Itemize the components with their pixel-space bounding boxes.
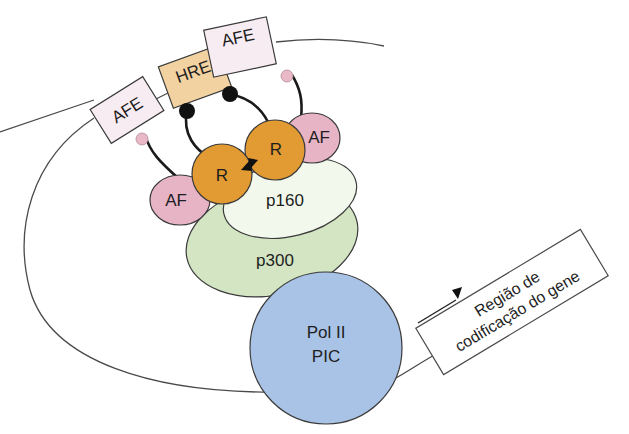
receptor-left-label: R (216, 166, 228, 185)
transcription-diagram: AFE HRE AFE p300 p160 AF AF R R Pol II P… (0, 0, 629, 434)
receptor-right-label: R (270, 140, 282, 159)
tether-afe-right (292, 75, 302, 118)
afe-left-element: AFE (90, 77, 164, 144)
af-right-label: AF (308, 128, 330, 147)
afe-left-connector (136, 133, 148, 145)
afe-right-element: AFE (204, 17, 277, 77)
pol2-label: Pol II (307, 323, 346, 342)
p160-label: p160 (266, 191, 304, 210)
afe-right-connector (281, 70, 293, 82)
gene-coding-region: Região de codificação do gene (416, 229, 608, 374)
hre-binding-dot-right (222, 86, 238, 102)
af-left-label: AF (165, 191, 187, 210)
hre-binding-dot-left (179, 103, 195, 119)
p300-label: p300 (256, 251, 294, 270)
pic-label: PIC (312, 347, 340, 366)
tether-afe-left (145, 135, 178, 178)
arrowhead-icon (452, 287, 462, 299)
